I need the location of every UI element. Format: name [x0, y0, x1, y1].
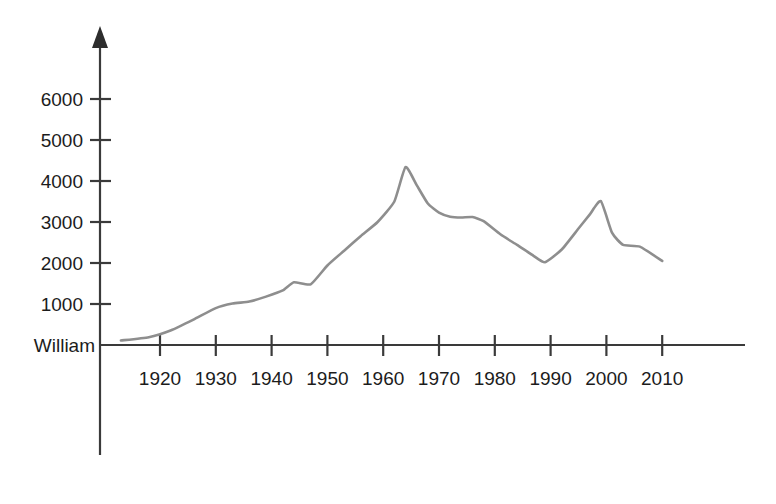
x-axis-tick-labels: 1920193019401950196019701980199020002010	[139, 368, 683, 389]
x-axis-tick-label: 2000	[585, 368, 627, 389]
x-axis-tick-label: 1930	[195, 368, 237, 389]
y-axis-arrow-icon	[92, 26, 108, 48]
x-axis-tick-label: 1970	[418, 368, 460, 389]
x-axis-tick-label: 1990	[529, 368, 571, 389]
x-axis-tick-label: 1940	[250, 368, 292, 389]
y-axis-tick-label: 3000	[41, 212, 83, 233]
y-axis-tick-label: 2000	[41, 253, 83, 274]
chart-container: 100020003000400050006000 192019301940195…	[0, 0, 776, 504]
x-axis-tick-label: 1980	[474, 368, 516, 389]
x-axis-group: 1920193019401950196019701980199020002010	[100, 335, 745, 389]
y-axis-tick-label: 1000	[41, 294, 83, 315]
x-axis-tick-label: 1920	[139, 368, 181, 389]
y-axis-group: 100020003000400050006000	[41, 26, 111, 455]
line-chart: 100020003000400050006000 192019301940195…	[0, 0, 776, 504]
data-series-group	[121, 167, 662, 341]
data-line-william	[121, 167, 662, 341]
origin-axis-label: William	[34, 335, 95, 356]
x-axis-tick-label: 2010	[641, 368, 683, 389]
y-axis-tick-label: 5000	[41, 130, 83, 151]
x-axis-tick-label: 1950	[306, 368, 348, 389]
y-axis-tick-label: 6000	[41, 89, 83, 110]
y-axis-tick-label: 4000	[41, 171, 83, 192]
x-axis-tick-label: 1960	[362, 368, 404, 389]
y-axis-tick-labels: 100020003000400050006000	[41, 89, 83, 315]
